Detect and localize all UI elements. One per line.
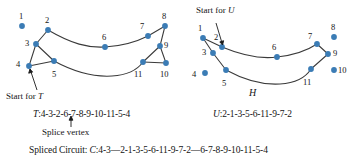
vertex-label-right-1: 1 [198,24,202,33]
vertex-label-right-10: 10 [338,66,347,75]
start-for-t-arrowhead [29,69,33,73]
vertex-label-left-7: 7 [140,22,144,31]
vertex-label-left-11: 11 [134,70,142,79]
spliced-circuit-line: Spliced Circuit: C:4-3—2-1-3-5-6-11-9-7-… [29,146,268,156]
vertex-label-left-4: 4 [16,60,20,69]
figure-canvas: 1234567891011 1234567891011 Start for T … [0,0,358,164]
graph-h-name-label: H [249,88,256,98]
start-for-u-arrowhead [220,41,224,45]
vertex-label-right-2: 2 [214,33,218,42]
vertex-label-left-9: 9 [164,41,168,50]
t-circuit-sequence: T:4-3-2-6-7-8-9-10-11-5-4 [33,110,130,120]
vertex-label-right-11: 11 [303,78,311,87]
start-for-u-label: Start for U [196,6,235,15]
vertex-label-right-9: 9 [333,49,337,58]
vertex-label-right-4: 4 [192,70,196,79]
vertex-label-left-1: 1 [19,12,23,21]
vertex-label-right-7: 7 [308,32,312,41]
vertex-label-left-2: 2 [45,16,49,25]
start-for-t-label: Start for T [6,92,43,101]
splice-vertex-label: Splice vertex [42,128,89,137]
vertex-label-right-6: 6 [272,43,276,52]
vertex-label-left-8: 8 [162,12,166,21]
vertex-label-left-10: 10 [160,70,169,79]
vertex-label-right-3: 3 [202,48,206,57]
vertex-label-left-5: 5 [52,70,56,79]
vertex-label-right-5: 5 [222,79,226,88]
vertex-label-left-6: 6 [102,33,106,42]
vertex-label-left-3: 3 [25,39,29,48]
vertex-label-right-8: 8 [331,23,335,32]
u-circuit-sequence: U:2-1-3-5-6-11-9-7-2 [213,110,292,120]
